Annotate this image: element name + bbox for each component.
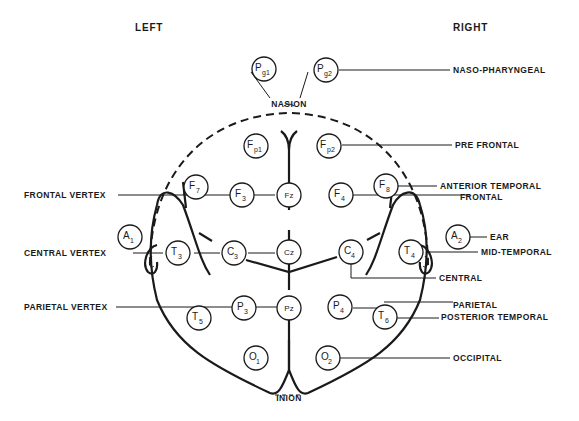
posterior-temporal-label: POSTERIOR TEMPORAL <box>441 312 548 322</box>
svg-text:P: P <box>237 301 244 312</box>
svg-text:7: 7 <box>196 187 200 194</box>
svg-text:g2: g2 <box>324 70 332 78</box>
svg-text:Cz: Cz <box>284 248 294 257</box>
electrode-a1[interactable]: A 1 <box>118 225 142 249</box>
svg-text:Fz: Fz <box>285 191 294 200</box>
svg-text:5: 5 <box>199 318 203 325</box>
svg-text:F: F <box>235 188 241 199</box>
svg-text:F: F <box>334 188 340 199</box>
electrode-f8[interactable]: F 8 <box>374 174 398 198</box>
svg-text:4: 4 <box>411 252 415 259</box>
svg-text:A: A <box>123 230 130 241</box>
electrode-p4[interactable]: P 4 <box>328 295 352 319</box>
electrode-pz[interactable]: Pz <box>277 296 301 320</box>
svg-text:3: 3 <box>178 253 182 260</box>
svg-text:1: 1 <box>256 358 260 365</box>
svg-text:F: F <box>247 139 253 150</box>
electrode-t4[interactable]: T 4 <box>399 240 423 264</box>
svg-text:3: 3 <box>234 253 238 260</box>
svg-text:1: 1 <box>130 237 134 244</box>
svg-text:P: P <box>333 300 340 311</box>
svg-text:F: F <box>320 139 326 150</box>
svg-text:p1: p1 <box>254 146 262 154</box>
svg-text:8: 8 <box>386 186 390 193</box>
electrode-fp2[interactable]: F p2 <box>317 134 341 158</box>
svg-text:4: 4 <box>340 307 344 314</box>
electrode-f3[interactable]: F 3 <box>230 183 254 207</box>
svg-text:T: T <box>192 311 198 322</box>
naso-pharyngeal-label: NASO-PHARYNGEAL <box>453 65 546 75</box>
right-fissure-mark <box>367 233 380 240</box>
electrode-c3[interactable]: C 3 <box>222 241 246 265</box>
electrode-p3[interactable]: P 3 <box>232 296 256 320</box>
svg-text:4: 4 <box>341 195 345 202</box>
electrode-t6[interactable]: T 6 <box>373 305 397 329</box>
nasion-label: NASION <box>271 99 306 109</box>
svg-text:g1: g1 <box>262 69 270 77</box>
svg-text:T: T <box>378 310 384 321</box>
svg-text:Pz: Pz <box>284 304 293 313</box>
anterior-temporal-label: ANTERIOR TEMPORAL <box>440 181 541 191</box>
electrode-cz[interactable]: Cz <box>277 240 301 264</box>
left-side-label: LEFT <box>135 22 163 33</box>
svg-text:F: F <box>379 179 385 190</box>
electrode-a2[interactable]: A 2 <box>446 225 470 249</box>
electrode-fp1[interactable]: F p1 <box>244 134 268 158</box>
ear-label: EAR <box>490 232 509 242</box>
occipital-label: OCCIPITAL <box>453 353 502 363</box>
parietal-label: PARIETAL <box>453 300 497 310</box>
electrode-f4[interactable]: F 4 <box>329 183 353 207</box>
electrode-c4[interactable]: C 4 <box>339 240 363 264</box>
svg-text:6: 6 <box>385 317 389 324</box>
frontal-vertex-label: FRONTAL VERTEX <box>24 190 106 200</box>
electrode-t5[interactable]: T 5 <box>187 306 211 330</box>
svg-text:2: 2 <box>458 237 462 244</box>
svg-text:P: P <box>317 63 324 74</box>
electrode-fz[interactable]: Fz <box>277 183 301 207</box>
central-label: CENTRAL <box>439 273 482 283</box>
pre-frontal-label: PRE FRONTAL <box>455 140 519 150</box>
svg-text:F: F <box>189 180 195 191</box>
svg-text:T: T <box>404 245 410 256</box>
frontal-label: FRONTAL <box>460 192 503 202</box>
svg-text:3: 3 <box>244 308 248 315</box>
inion-label: INION <box>276 393 302 403</box>
electrode-f7[interactable]: F 7 <box>184 175 208 199</box>
right-side-label: RIGHT <box>453 22 488 33</box>
svg-text:3: 3 <box>242 195 246 202</box>
electrode-pg1[interactable]: P g1 <box>252 57 276 81</box>
electrode-o2[interactable]: O 2 <box>316 346 340 370</box>
eeg-electrode-diagram: LEFT RIGHT <box>0 0 579 421</box>
parietal-vertex-label: PARIETAL VERTEX <box>24 302 107 312</box>
electrode-t3[interactable]: T 3 <box>166 241 190 265</box>
electrode-o1[interactable]: O 1 <box>244 346 268 370</box>
svg-text:A: A <box>451 230 458 241</box>
connector-lines <box>116 70 487 358</box>
svg-text:4: 4 <box>351 252 355 259</box>
svg-text:2: 2 <box>328 358 332 365</box>
svg-text:p2: p2 <box>327 146 335 154</box>
mid-temporal-label: MID-TEMPORAL <box>481 247 552 257</box>
svg-text:T: T <box>171 246 177 257</box>
electrode-pg2[interactable]: P g2 <box>314 58 338 82</box>
left-fissure-mark <box>199 233 212 241</box>
svg-text:P: P <box>255 62 262 73</box>
central-vertex-label: CENTRAL VERTEX <box>24 248 106 258</box>
